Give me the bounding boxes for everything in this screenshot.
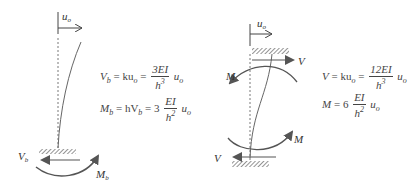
bottom-support-hatch xyxy=(232,161,269,167)
right-displacement-label: uo xyxy=(257,17,267,31)
deflected-column xyxy=(58,42,81,148)
moment-arrow-icon xyxy=(36,156,98,176)
right-bottom-shear-label: V xyxy=(214,152,222,164)
left-moment-label: Mb xyxy=(95,168,109,182)
right-shear-equation: V = kuo = 12EIh3 uo xyxy=(322,64,407,91)
deflected-column xyxy=(250,54,272,158)
left-moment-equation: Mb = hVb = 3 EIh2 uo xyxy=(100,96,191,123)
top-moment-arrow-icon xyxy=(230,66,297,83)
right-moment-equation: M = 6 EIh2 uo xyxy=(322,92,380,119)
fixed-fixed-diagram xyxy=(228,24,297,167)
right-bottom-moment-label: M xyxy=(293,133,304,145)
top-support-hatch xyxy=(252,48,289,54)
bottom-moment-arrow-icon xyxy=(228,132,292,150)
left-shear-equation: Vb = kuo = 3EIh3 uo xyxy=(100,64,183,91)
fixed-support-hatch xyxy=(39,149,76,154)
cantilever-diagram xyxy=(36,12,98,176)
right-top-moment-label: M xyxy=(225,70,236,82)
left-shear-label: Vb xyxy=(18,150,29,164)
right-top-shear-label: V xyxy=(298,55,306,67)
left-displacement-label: uo xyxy=(62,10,72,24)
